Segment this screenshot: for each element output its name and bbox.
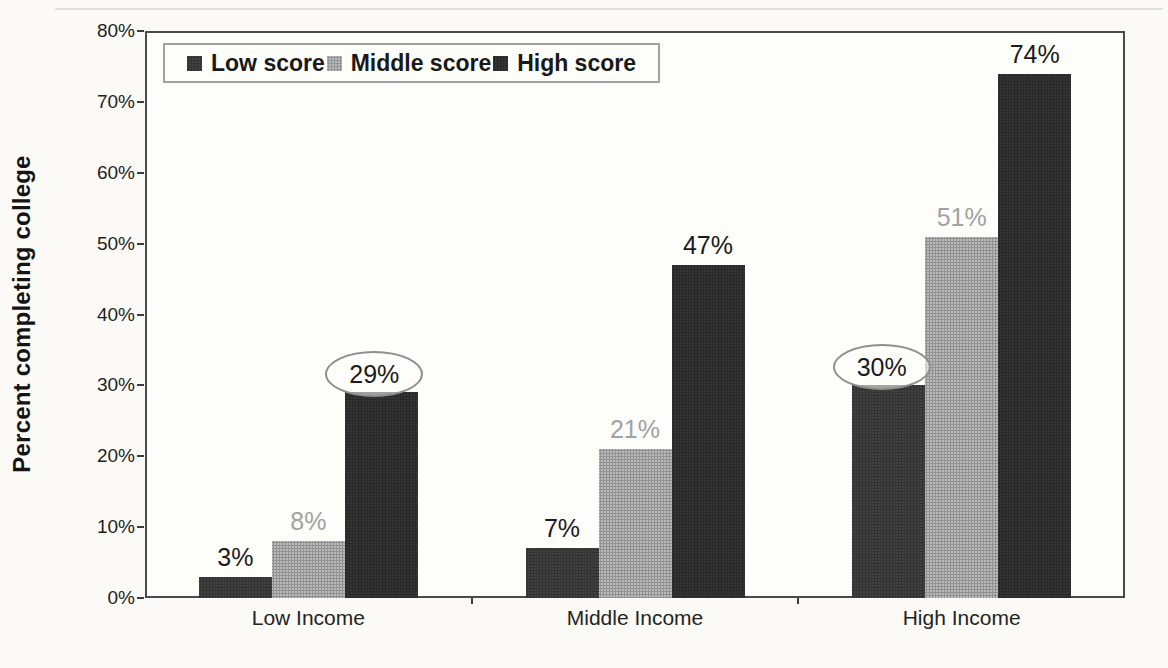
legend-label-middle-score: Middle score xyxy=(351,50,492,77)
x-category-label: Low Income xyxy=(158,606,458,630)
bar-value-label: 7% xyxy=(492,513,632,543)
bar-value-label: 30% xyxy=(812,352,952,382)
y-tick-mark xyxy=(137,314,144,316)
y-tick-label: 70% xyxy=(5,91,135,113)
x-tick-mark xyxy=(797,598,799,604)
high-score-swatch-icon xyxy=(493,56,508,71)
legend-label-high-score: High score xyxy=(517,50,636,77)
x-category-label: Middle Income xyxy=(485,606,785,630)
bar-value-label: 74% xyxy=(965,39,1105,69)
y-tick-label: 80% xyxy=(5,20,135,42)
scan-artifact-line xyxy=(55,8,1163,10)
low-score-swatch-icon xyxy=(187,56,202,71)
y-tick-label: 30% xyxy=(5,374,135,396)
x-category-label: High Income xyxy=(812,606,1112,630)
y-tick-mark xyxy=(137,172,144,174)
bar-middle-score-high-income xyxy=(925,237,998,598)
y-tick-mark xyxy=(137,243,144,245)
y-tick-mark xyxy=(137,597,144,599)
bar-value-label: 51% xyxy=(892,202,1032,232)
legend-item-low-score: Low score xyxy=(187,50,325,77)
legend: Low score Middle score High score xyxy=(163,43,660,83)
bar-value-label: 47% xyxy=(638,230,778,260)
y-tick-mark xyxy=(137,30,144,32)
bar-value-label: 8% xyxy=(238,506,378,536)
bar-value-label: 3% xyxy=(165,542,305,572)
middle-score-swatch-icon xyxy=(327,56,342,71)
bar-high-score-low-income xyxy=(345,392,418,598)
y-tick-label: 0% xyxy=(5,587,135,609)
y-tick-label: 10% xyxy=(5,516,135,538)
y-tick-label: 20% xyxy=(5,445,135,467)
legend-item-high-score: High score xyxy=(493,50,636,77)
bar-value-label: 21% xyxy=(565,414,705,444)
bar-value-label: 29% xyxy=(304,359,444,389)
scanned-bar-chart-page: Percent completing college 0%10%20%30%40… xyxy=(0,0,1168,668)
bar-low-score-middle-income xyxy=(526,548,599,598)
bar-low-score-low-income xyxy=(199,577,272,598)
bar-high-score-high-income xyxy=(998,74,1071,598)
y-tick-mark xyxy=(137,526,144,528)
legend-item-middle-score: Middle score xyxy=(327,50,492,77)
y-tick-mark xyxy=(137,455,144,457)
y-tick-label: 50% xyxy=(5,233,135,255)
bar-low-score-high-income xyxy=(852,385,925,598)
y-tick-label: 40% xyxy=(5,304,135,326)
y-tick-mark xyxy=(137,101,144,103)
x-tick-mark xyxy=(471,598,473,604)
y-tick-label: 60% xyxy=(5,162,135,184)
legend-label-low-score: Low score xyxy=(211,50,325,77)
y-tick-mark xyxy=(137,384,144,386)
